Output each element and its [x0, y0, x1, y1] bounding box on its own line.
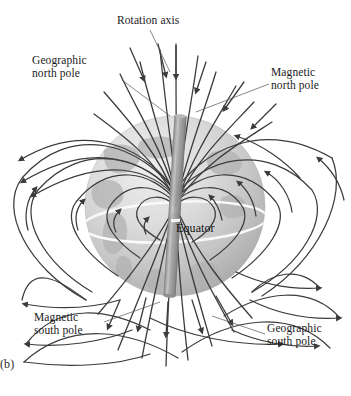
south-arrow-1	[138, 298, 146, 330]
label-geographic-south-pole: Geographic south pole	[267, 322, 322, 348]
north-arrow-4	[196, 62, 206, 92]
field-arrow-left-b	[76, 200, 84, 230]
label-magnetic-south-pole: Magnetic south pole	[34, 311, 83, 337]
label-rotation-axis: Rotation axis	[117, 14, 179, 27]
field-loop-bottom-right-1	[252, 274, 320, 292]
label-magnetic-north-pole: Magnetic north pole	[271, 66, 319, 92]
label-equator: Equator	[176, 222, 215, 235]
field-arrow-right-c	[266, 172, 292, 212]
field-arrows-north	[130, 44, 276, 128]
leader-rotation-axis	[150, 30, 170, 72]
north-arrow-6	[252, 104, 276, 128]
field-arrow-right-b	[318, 158, 344, 200]
south-arrow-5	[108, 300, 120, 328]
field-arrow-lower-right-b	[250, 300, 340, 318]
field-line-lower-left-c	[24, 354, 150, 365]
field-loop-bottom-left-3	[24, 334, 178, 362]
north-arrow-1	[130, 48, 144, 80]
figure-panel-label: (b)	[0, 358, 14, 371]
figure-magnetic-field-diagram: Rotation axis Geographic north pole Magn…	[0, 0, 351, 396]
field-arrow-lower-left-a	[24, 300, 120, 307]
label-geographic-north-pole: Geographic north pole	[32, 54, 87, 80]
north-arrow-5	[224, 82, 244, 110]
leader-magnetic-north	[196, 84, 269, 112]
